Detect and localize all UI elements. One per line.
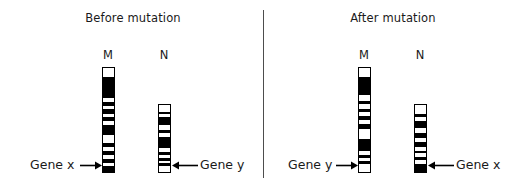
chromosome-band: [159, 105, 170, 112]
chromosome-before-n: [158, 104, 171, 173]
panel-title-after: After mutation: [328, 11, 458, 25]
chromosome-band: [159, 166, 170, 172]
chromosome-band: [359, 129, 370, 139]
panel-divider: [263, 10, 264, 178]
chromosome-mutation-diagram: Before mutation After mutation M N M N G…: [0, 0, 528, 189]
arrow-icon-before-gene-x: [80, 161, 102, 170]
chromosome-label-after-m: M: [354, 48, 374, 62]
chromosome-band: [359, 164, 370, 172]
chromosome-label-before-n: N: [154, 48, 174, 62]
chromosome-band: [415, 121, 426, 129]
chromosome-band: [103, 80, 114, 99]
chromosome-after-n: [414, 104, 427, 173]
chromosome-band: [359, 68, 370, 77]
chromosome-band: [103, 68, 114, 77]
chromosome-band: [359, 80, 370, 96]
chromosome-label-after-n: N: [410, 48, 430, 62]
panel-title-before: Before mutation: [68, 11, 198, 25]
chromosome-band: [159, 117, 170, 125]
gene-label-after-gene-y: Gene y: [288, 157, 332, 172]
chromosome-band: [103, 166, 114, 172]
chromosome-label-before-m: M: [98, 48, 118, 62]
chromosome-band: [159, 137, 170, 148]
chromosome-band: [415, 164, 426, 172]
chromosome-after-m: [358, 67, 371, 173]
arrow-icon-before-gene-y: [172, 161, 198, 170]
chromosome-band: [415, 105, 426, 114]
arrow-icon-after-gene-x: [428, 161, 454, 170]
chromosome-before-m: [102, 67, 115, 173]
chromosome-band: [359, 139, 370, 152]
gene-label-after-gene-x: Gene x: [456, 157, 500, 172]
gene-label-before-gene-y: Gene y: [200, 157, 244, 172]
gene-label-before-gene-x: Gene x: [30, 157, 74, 172]
arrow-icon-after-gene-y: [336, 161, 358, 170]
chromosome-band: [103, 135, 114, 143]
chromosome-band: [103, 125, 114, 135]
